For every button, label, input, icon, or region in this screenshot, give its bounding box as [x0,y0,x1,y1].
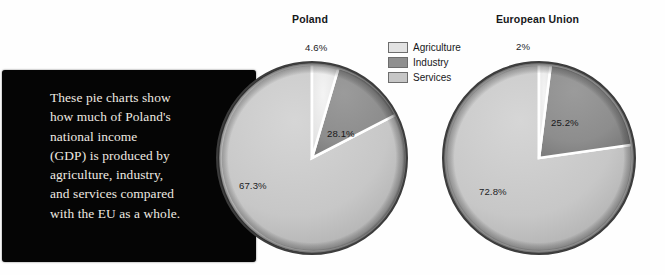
chart-legend: Agriculture Industry Services [388,41,461,84]
figure-canvas: These pie charts show how much of Poland… [0,0,665,275]
pie-poland-label-industry: 28.1% [327,128,355,139]
legend-item-agriculture[interactable]: Agriculture [388,41,461,54]
chart-title-poland: Poland [265,13,355,25]
pie-eu-svg [440,60,638,260]
legend-swatch-agriculture [388,42,408,53]
legend-label-industry: Industry [413,57,449,68]
pie-chart-eu [440,60,638,260]
legend-label-services: Services [413,72,451,83]
pie-eu-label-services: 72.8% [479,186,507,197]
legend-swatch-services [388,72,408,83]
legend-swatch-industry [388,57,408,68]
legend-item-industry[interactable]: Industry [388,56,461,69]
pie-chart-poland [214,60,410,260]
legend-label-agriculture: Agriculture [413,42,461,53]
pie-poland-label-agriculture: 4.6% [305,42,327,53]
legend-item-services[interactable]: Services [388,71,461,84]
caption-text: These pie charts show how much of Poland… [50,88,240,223]
chart-title-eu: European Union [480,13,595,25]
pie-eu-label-agriculture: 2% [516,41,530,52]
pie-poland-label-services: 67.3% [239,180,267,191]
pie-eu-label-industry: 25.2% [551,117,579,128]
pie-poland-svg [214,60,410,260]
